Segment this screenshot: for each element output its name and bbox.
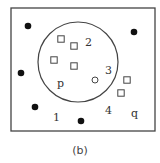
open-points-group bbox=[92, 77, 98, 83]
filled-points-group bbox=[18, 23, 138, 125]
label-p: p bbox=[57, 77, 64, 90]
square-point bbox=[71, 63, 77, 69]
filled-point bbox=[32, 104, 39, 111]
square-point bbox=[51, 57, 57, 63]
square-point bbox=[58, 36, 64, 42]
filled-point bbox=[78, 118, 85, 125]
figure-caption: (b) bbox=[72, 144, 88, 157]
label-q: q bbox=[131, 107, 138, 120]
square-point bbox=[71, 43, 77, 49]
filled-point bbox=[25, 23, 32, 30]
region-label-4: 4 bbox=[105, 104, 112, 117]
square-point bbox=[118, 90, 124, 96]
filled-point bbox=[131, 29, 138, 36]
set-circle bbox=[38, 22, 118, 102]
filled-point bbox=[18, 70, 25, 77]
region-label-1: 1 bbox=[53, 111, 60, 124]
square-point bbox=[124, 77, 130, 83]
open-point bbox=[92, 77, 98, 83]
region-label-2: 2 bbox=[85, 36, 92, 49]
region-label-3: 3 bbox=[105, 64, 112, 77]
diagram-canvas: 2 3 p 1 4 q (b) bbox=[0, 0, 160, 163]
